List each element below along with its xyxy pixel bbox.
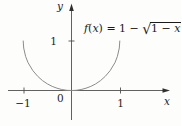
origin-label: 0 (57, 93, 64, 104)
radicand: 1 − x2 (150, 22, 181, 35)
y-axis-arrowhead-icon (69, 4, 74, 12)
function-plot-figure: y x 0 1 −1 1 f(x) = 1 − √1 − x2 (0, 0, 181, 126)
function-formula: f(x) = 1 − √1 − x2 (84, 22, 181, 35)
x-tick-label-1: 1 (116, 98, 125, 109)
x-axis-arrowhead-icon (163, 88, 171, 93)
formula-equals-part: ) = 1 − (99, 23, 143, 35)
radicand-exponent: 2 (181, 22, 182, 30)
x-axis-label: x (164, 96, 170, 107)
y-tick-label-1: 1 (49, 36, 57, 47)
radicand-prefix: 1 − (151, 22, 174, 35)
y-axis-label: y (57, 1, 63, 12)
x-tick-label-neg1: −1 (14, 98, 32, 109)
